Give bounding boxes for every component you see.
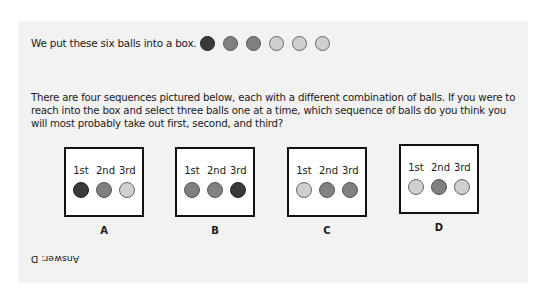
ordinal-3rd: 3rd	[230, 165, 246, 176]
sequence-balls	[401, 179, 477, 195]
ordinal-1st: 1st	[184, 165, 200, 176]
sequence-balls	[289, 182, 365, 198]
ordinal-1st: 1st	[73, 165, 89, 176]
ball	[119, 182, 135, 198]
six-balls	[200, 36, 330, 51]
ball	[184, 182, 200, 198]
ball	[431, 179, 447, 195]
ordinal-3rd: 3rd	[454, 162, 470, 173]
ball	[230, 182, 246, 198]
ball	[454, 179, 470, 195]
ordinal-2nd: 2nd	[207, 165, 223, 176]
ball	[223, 36, 238, 51]
ordinal-2nd: 2nd	[96, 165, 112, 176]
sequence-balls	[66, 182, 142, 198]
option-label-c: C	[287, 225, 367, 236]
ordinal-3rd: 3rd	[342, 165, 358, 176]
option-label-b: B	[175, 225, 255, 236]
ordinal-labels: 1st 2nd 3rd	[66, 165, 142, 176]
ordinal-2nd: 2nd	[431, 162, 447, 173]
ordinal-labels: 1st 2nd 3rd	[289, 165, 365, 176]
ball	[269, 36, 284, 51]
option-box-d: 1st 2nd 3rd	[399, 144, 479, 214]
ordinal-labels: 1st 2nd 3rd	[177, 165, 253, 176]
ordinal-2nd: 2nd	[319, 165, 335, 176]
ball	[73, 182, 89, 198]
sequence-balls	[177, 182, 253, 198]
ball	[315, 36, 330, 51]
ball	[207, 182, 223, 198]
option-label-d: D	[399, 222, 479, 233]
ball	[200, 36, 215, 51]
ball	[342, 182, 358, 198]
option-box-b: 1st 2nd 3rd	[175, 147, 255, 217]
ball	[319, 182, 335, 198]
ordinal-1st: 1st	[408, 162, 424, 173]
ordinal-labels: 1st 2nd 3rd	[401, 162, 477, 173]
intro-text: We put these six balls into a box.	[31, 37, 196, 49]
ball	[292, 36, 307, 51]
ball	[246, 36, 261, 51]
ordinal-1st: 1st	[296, 165, 312, 176]
ball	[296, 182, 312, 198]
option-box-a: 1st 2nd 3rd	[64, 147, 144, 217]
ball	[96, 182, 112, 198]
option-label-a: A	[64, 225, 144, 236]
ordinal-3rd: 3rd	[119, 165, 135, 176]
option-box-c: 1st 2nd 3rd	[287, 147, 367, 217]
question-text: There are four sequences pictured below,…	[31, 91, 521, 130]
ball	[408, 179, 424, 195]
upside-down-answer: Answer: D	[31, 254, 79, 265]
